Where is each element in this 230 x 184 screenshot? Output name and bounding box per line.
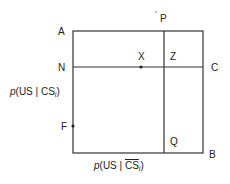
label-q: Q [170,137,178,147]
y-axis-label: p(US | CSi) [10,86,60,101]
x-axis-close: ) [140,160,143,171]
point-f-dot [71,124,74,127]
label-a: A [58,27,65,37]
label-x: X [138,52,145,62]
label-c: C [211,63,218,73]
x-axis-cs-bar: CS [125,160,139,171]
label-f: F [61,122,67,132]
point-x-dot [139,65,142,68]
y-axis-open: (US | CS [16,86,55,97]
label-n: N [58,63,65,73]
x-axis-open: (US | [100,160,125,171]
stray-dot [155,11,156,12]
x-axis-label: p(US | CSi) [94,160,144,175]
outer-square [73,31,203,153]
y-axis-close: ) [56,86,59,97]
label-p: P [160,14,167,24]
label-b: B [209,150,216,160]
label-z: Z [170,52,176,62]
